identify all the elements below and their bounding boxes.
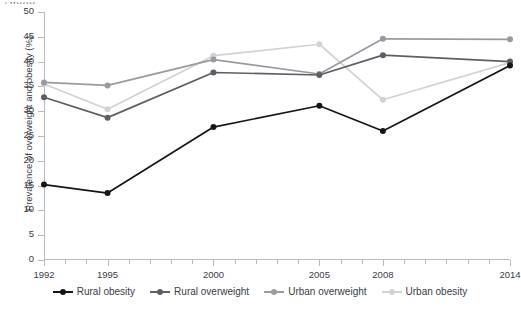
data-point <box>380 52 386 58</box>
legend-marker-icon <box>53 287 73 296</box>
legend-label: Urban overweight <box>288 286 366 297</box>
data-point <box>105 190 111 196</box>
series-urban-overweight <box>41 36 513 89</box>
legend-marker-icon <box>382 287 402 296</box>
x-tick-1999 <box>192 260 193 264</box>
data-point <box>41 182 47 188</box>
x-tick-2010 <box>425 260 426 264</box>
x-tick-1996 <box>129 260 130 264</box>
x-tick-2002 <box>256 260 257 264</box>
legend-marker-icon <box>150 287 170 296</box>
legend-item-rural-overweight[interactable]: Rural overweight <box>150 286 249 297</box>
data-point <box>41 94 47 100</box>
x-tick-1994 <box>86 260 87 264</box>
data-point <box>507 63 513 69</box>
data-point <box>210 124 216 130</box>
x-tick-1993 <box>65 260 66 264</box>
x-tick-2006 <box>341 260 342 264</box>
y-tick-label-15: 15 <box>23 179 34 190</box>
data-point <box>316 41 322 47</box>
series-layer <box>44 12 510 260</box>
legend-item-urban-obesity[interactable]: Urban obesity <box>382 286 468 297</box>
x-tick-2004 <box>298 260 299 264</box>
series-rural-overweight <box>41 52 513 121</box>
y-tick-label-20: 20 <box>23 154 34 165</box>
legend-label: Rural obesity <box>77 286 135 297</box>
data-point <box>105 115 111 121</box>
x-tick-1997 <box>150 260 151 264</box>
y-tick-label-0: 0 <box>29 253 34 264</box>
x-tick-2001 <box>235 260 236 264</box>
data-point <box>380 36 386 42</box>
x-tick-label-2014: 2014 <box>499 269 520 280</box>
data-point <box>105 106 111 112</box>
series-line <box>44 55 510 118</box>
x-tick-label-1995: 1995 <box>97 269 118 280</box>
series-line <box>44 44 510 109</box>
y-tick-label-40: 40 <box>23 55 34 66</box>
x-tick-1998 <box>171 260 172 264</box>
clipped-title-fragment: ˌ ̦ ̦ ̖ ̗ ̗ ̖ ̖ ̗ <box>0 0 520 7</box>
legend-label: Urban obesity <box>406 286 468 297</box>
x-tick-2008: 2008 <box>383 260 384 266</box>
x-tick-2007 <box>362 260 363 264</box>
y-tick-label-50: 50 <box>23 5 34 16</box>
legend-item-urban-overweight[interactable]: Urban overweight <box>264 286 366 297</box>
x-tick-1992: 1992 <box>44 260 45 266</box>
chart-legend: Rural obesityRural overweightUrban overw… <box>0 286 520 297</box>
data-point <box>210 57 216 63</box>
data-point <box>41 79 47 85</box>
x-tick-2005: 2005 <box>319 260 320 266</box>
x-tick-2013 <box>489 260 490 264</box>
data-point <box>210 70 216 76</box>
x-tick-label-2000: 2000 <box>203 269 224 280</box>
x-tick-label-2008: 2008 <box>372 269 393 280</box>
y-tick-label-45: 45 <box>23 30 34 41</box>
data-point <box>316 72 322 78</box>
y-tick-label-10: 10 <box>23 203 34 214</box>
legend-label: Rural overweight <box>174 286 249 297</box>
series-urban-obesity <box>41 41 513 112</box>
x-tick-1995: 1995 <box>108 260 109 266</box>
y-tick-label-25: 25 <box>23 129 34 140</box>
x-tick-2014: 2014 <box>510 260 511 266</box>
legend-marker-icon <box>264 287 284 296</box>
data-point <box>105 82 111 88</box>
data-point <box>507 36 513 42</box>
x-tick-label-2005: 2005 <box>309 269 330 280</box>
y-tick-label-5: 5 <box>29 228 34 239</box>
x-tick-2009 <box>404 260 405 264</box>
data-point <box>380 128 386 134</box>
data-point <box>316 103 322 109</box>
data-point <box>380 97 386 103</box>
plot-area: 05101520253035404550 1992199520002005200… <box>44 12 510 260</box>
x-tick-2003 <box>277 260 278 264</box>
x-tick-label-1992: 1992 <box>33 269 54 280</box>
y-tick-label-35: 35 <box>23 79 34 90</box>
series-line <box>44 39 510 86</box>
x-tick-2000: 2000 <box>213 260 214 266</box>
x-tick-2012 <box>468 260 469 264</box>
x-tick-2011 <box>446 260 447 264</box>
y-tick-label-30: 30 <box>23 104 34 115</box>
legend-item-rural-obesity[interactable]: Rural obesity <box>53 286 135 297</box>
